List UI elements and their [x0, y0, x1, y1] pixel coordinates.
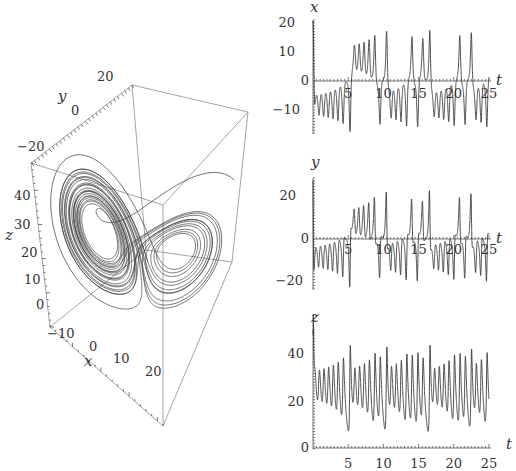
- t-tick-25: 25: [481, 456, 498, 471]
- x-ytick-10: 10: [278, 44, 295, 59]
- z-ytick-20: 20: [287, 394, 304, 409]
- t-tick-5: 5: [344, 86, 352, 101]
- z-ytick-40: 40: [287, 346, 304, 361]
- x-series-line: [313, 21, 489, 131]
- z-xticks: 510152025: [344, 456, 497, 471]
- z-tick-40: 40: [14, 188, 31, 203]
- t-tick-20: 20: [446, 86, 463, 101]
- t-tick-15: 15: [410, 86, 427, 101]
- y-ytick-20: 20: [279, 188, 296, 203]
- t-tick-25: 25: [481, 86, 498, 101]
- plot-x-vs-t: x t 20 10 0 −10 510152025: [273, 0, 503, 134]
- y-ytick-neg20: −20: [276, 273, 303, 288]
- z-tick-20: 20: [21, 245, 38, 260]
- y-axis-label: y: [57, 87, 67, 105]
- attractor-path: [51, 155, 235, 309]
- t-tick-15: 15: [410, 242, 427, 257]
- t-tick-5: 5: [344, 242, 352, 257]
- z-ytick-0: 0: [301, 440, 309, 455]
- plot-y-vs-t: y t 20 0 −20 510152025: [276, 153, 503, 290]
- attractor-curve: [51, 155, 235, 309]
- t-tick-20: 20: [446, 242, 463, 257]
- x-tick-neg10: −10: [47, 326, 74, 341]
- z-tlabel: t: [506, 435, 513, 453]
- t-tick-15: 15: [410, 456, 427, 471]
- t-tick-10: 10: [375, 86, 392, 101]
- plot-z-vs-t: z t 40 20 0 510152025: [287, 308, 513, 471]
- z-tick-0: 0: [36, 297, 44, 312]
- x-tick-20: 20: [145, 364, 162, 379]
- z-axis-label: z: [4, 226, 13, 244]
- x-ylabel: x: [310, 0, 319, 16]
- lorenz-figure: 20 0 −20 y 40 30 20 10 0 z −10 0 10 20 x…: [0, 0, 516, 471]
- x-axis-label: x: [84, 352, 93, 370]
- z-tick-10: 10: [24, 272, 41, 287]
- y-tick-20: 20: [97, 69, 114, 84]
- y-ytick-0: 0: [301, 231, 309, 246]
- z-series-line: [313, 315, 489, 431]
- plot-3d: 20 0 −20 y 40 30 20 10 0 z −10 0 10 20 x: [4, 69, 248, 426]
- z-ylabel: z: [310, 308, 319, 326]
- t-tick-25: 25: [481, 242, 498, 257]
- y-series-line: [313, 181, 489, 287]
- y-ylabel: y: [310, 153, 320, 171]
- x-ytick-20: 20: [278, 15, 295, 30]
- x-ytick-neg10: −10: [273, 102, 300, 117]
- t-tick-5: 5: [344, 456, 352, 471]
- y-tick-neg20: −20: [17, 139, 44, 154]
- x-tick-10: 10: [113, 351, 130, 366]
- t-tick-10: 10: [375, 242, 392, 257]
- z-tick-30: 30: [14, 217, 31, 232]
- t-tick-10: 10: [375, 456, 392, 471]
- x-ytick-0: 0: [301, 73, 309, 88]
- y-tick-0: 0: [71, 103, 79, 118]
- t-tick-20: 20: [446, 456, 463, 471]
